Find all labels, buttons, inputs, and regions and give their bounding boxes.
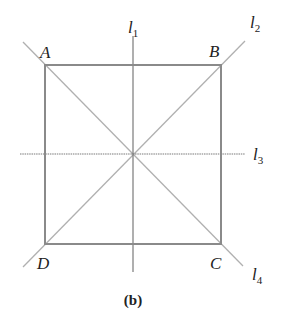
line-label-l4: l4: [252, 265, 263, 286]
line-label-l1: l1: [128, 18, 138, 39]
vertex-label-d: D: [36, 254, 50, 273]
vertex-label-a: A: [39, 43, 51, 62]
figure-caption: (b): [124, 292, 142, 309]
symmetry-diagram: A B C D l1 l2 l3 l4 (b): [0, 0, 288, 328]
line-label-l3: l3: [253, 145, 264, 166]
vertex-label-c: C: [210, 254, 222, 273]
vertex-label-b: B: [209, 42, 220, 61]
line-label-l2: l2: [250, 13, 260, 34]
